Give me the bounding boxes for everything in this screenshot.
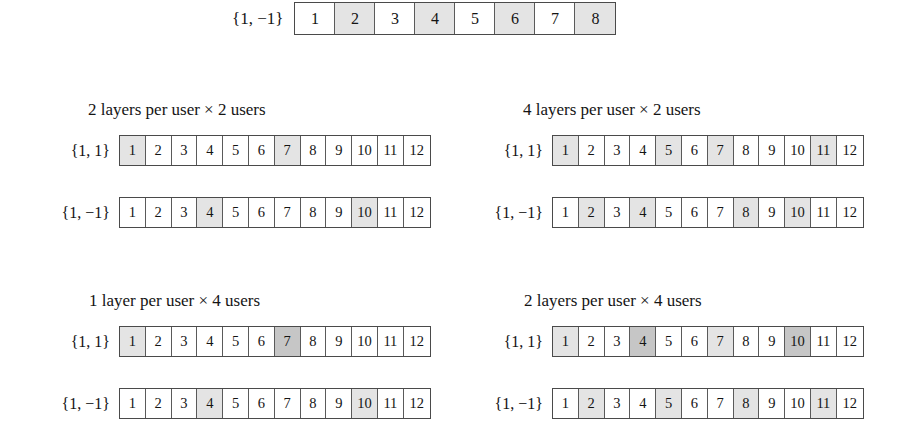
layer-cell-3: 3 xyxy=(172,136,198,165)
layer-cell-5: 5 xyxy=(455,3,495,34)
layer-cell-12: 12 xyxy=(837,389,863,418)
layer-cell-1: 1 xyxy=(120,327,146,356)
layer-cell-1: 1 xyxy=(295,3,335,34)
layer-cell-6: 6 xyxy=(249,389,275,418)
layer-cell-6: 6 xyxy=(249,136,275,165)
layer-cell-9: 9 xyxy=(759,198,785,227)
layer-cell-1: 1 xyxy=(120,389,146,418)
row-label: {1, 1} xyxy=(471,334,552,350)
layer-cell-4: 4 xyxy=(630,327,656,356)
row-label: {1, 1} xyxy=(38,334,119,350)
layer-cell-1: 1 xyxy=(120,198,146,227)
layer-cell-3: 3 xyxy=(605,327,631,356)
layer-cell-9: 9 xyxy=(326,389,352,418)
layer-cell-3: 3 xyxy=(375,3,415,34)
top-strip-row: {1, −1} 12345678 xyxy=(232,2,616,35)
layer-cell-7: 7 xyxy=(275,136,301,165)
layer-cell-2: 2 xyxy=(146,198,172,227)
layer-cell-1: 1 xyxy=(553,136,579,165)
layer-cell-12: 12 xyxy=(404,327,430,356)
strip-row: {1, 1} 123456789101112 xyxy=(38,326,431,357)
layer-strip: 123456789101112 xyxy=(119,388,431,419)
layer-cell-6: 6 xyxy=(249,327,275,356)
row-label: {1, 1} xyxy=(471,143,552,159)
layer-cell-2: 2 xyxy=(146,136,172,165)
layer-strip: 123456789101112 xyxy=(119,326,431,357)
layer-cell-5: 5 xyxy=(656,327,682,356)
layer-cell-7: 7 xyxy=(708,327,734,356)
strip-row: {1, −1} 123456789101112 xyxy=(471,388,864,419)
top-strip: 12345678 xyxy=(294,2,616,35)
row-label: {1, −1} xyxy=(38,396,119,412)
layer-cell-8: 8 xyxy=(734,136,760,165)
strip-row: {1, 1} 123456789101112 xyxy=(471,326,864,357)
strip-row: {1, −1} 123456789101112 xyxy=(38,388,431,419)
layer-cell-9: 9 xyxy=(759,389,785,418)
layer-cell-1: 1 xyxy=(120,136,146,165)
layer-cell-4: 4 xyxy=(197,389,223,418)
layer-cell-12: 12 xyxy=(404,389,430,418)
layer-cell-4: 4 xyxy=(197,327,223,356)
panel-title: 4 layers per user × 2 users xyxy=(523,101,701,118)
panel-title: 2 layers per user × 4 users xyxy=(524,292,702,309)
layer-cell-10: 10 xyxy=(785,389,811,418)
panel-title: 1 layer per user × 4 users xyxy=(89,292,260,309)
layer-cell-11: 11 xyxy=(811,327,837,356)
row-label: {1, 1} xyxy=(38,143,119,159)
layer-cell-10: 10 xyxy=(352,136,378,165)
layer-cell-1: 1 xyxy=(553,389,579,418)
layer-cell-4: 4 xyxy=(630,198,656,227)
layer-cell-2: 2 xyxy=(579,198,605,227)
layer-cell-11: 11 xyxy=(811,389,837,418)
layer-cell-8: 8 xyxy=(301,198,327,227)
layer-cell-7: 7 xyxy=(275,327,301,356)
layer-cell-8: 8 xyxy=(301,327,327,356)
layer-cell-3: 3 xyxy=(605,136,631,165)
layer-strip: 123456789101112 xyxy=(552,326,864,357)
layer-cell-7: 7 xyxy=(275,389,301,418)
layer-cell-2: 2 xyxy=(146,327,172,356)
layer-cell-2: 2 xyxy=(579,136,605,165)
layer-cell-9: 9 xyxy=(759,136,785,165)
panel-title: 2 layers per user × 2 users xyxy=(88,101,266,118)
row-label: {1, −1} xyxy=(471,396,552,412)
layer-cell-11: 11 xyxy=(378,198,404,227)
top-strip-label: {1, −1} xyxy=(232,10,294,27)
layer-cell-7: 7 xyxy=(275,198,301,227)
layer-cell-7: 7 xyxy=(708,198,734,227)
layer-cell-12: 12 xyxy=(404,136,430,165)
layer-cell-5: 5 xyxy=(223,198,249,227)
layer-cell-2: 2 xyxy=(146,389,172,418)
layer-cell-10: 10 xyxy=(352,198,378,227)
layer-strip: 123456789101112 xyxy=(552,197,864,228)
layer-cell-11: 11 xyxy=(378,389,404,418)
layer-cell-6: 6 xyxy=(682,136,708,165)
layer-strip: 123456789101112 xyxy=(119,197,431,228)
layer-cell-5: 5 xyxy=(656,389,682,418)
layer-cell-7: 7 xyxy=(708,389,734,418)
layer-cell-5: 5 xyxy=(656,198,682,227)
strip-row: {1, 1} 123456789101112 xyxy=(471,135,864,166)
layer-cell-11: 11 xyxy=(378,327,404,356)
layer-cell-5: 5 xyxy=(223,389,249,418)
layer-cell-3: 3 xyxy=(172,327,198,356)
layer-cell-11: 11 xyxy=(378,136,404,165)
layer-cell-6: 6 xyxy=(682,198,708,227)
layer-cell-10: 10 xyxy=(785,136,811,165)
layer-cell-6: 6 xyxy=(495,3,535,34)
layer-cell-8: 8 xyxy=(734,389,760,418)
layer-cell-6: 6 xyxy=(682,389,708,418)
row-label: {1, −1} xyxy=(38,205,119,221)
layer-cell-10: 10 xyxy=(785,198,811,227)
layer-cell-8: 8 xyxy=(301,389,327,418)
row-label: {1, −1} xyxy=(471,205,552,221)
layer-cell-1: 1 xyxy=(553,327,579,356)
layer-cell-8: 8 xyxy=(734,198,760,227)
strip-row: {1, −1} 123456789101112 xyxy=(471,197,864,228)
layer-cell-6: 6 xyxy=(682,327,708,356)
layer-cell-3: 3 xyxy=(605,389,631,418)
layer-cell-8: 8 xyxy=(734,327,760,356)
layer-cell-4: 4 xyxy=(197,198,223,227)
layer-cell-6: 6 xyxy=(249,198,275,227)
strip-row: {1, 1} 123456789101112 xyxy=(38,135,431,166)
